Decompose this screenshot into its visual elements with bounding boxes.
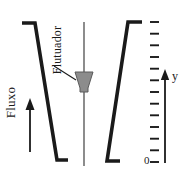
tube-right-wall (107, 22, 142, 161)
y-axis-label: y (172, 70, 178, 82)
rotameter-diagram: Fluxo Flutuador y 0 (0, 0, 185, 176)
scale-origin-label: 0 (144, 155, 150, 166)
float-body (75, 72, 93, 92)
scale-ticks (150, 22, 159, 162)
float-label: Flutuador (51, 26, 63, 74)
diagram-canvas (0, 0, 185, 176)
flow-label: Fluxo (4, 87, 17, 118)
flow-arrow (26, 98, 35, 152)
y-axis-arrow (161, 69, 169, 163)
